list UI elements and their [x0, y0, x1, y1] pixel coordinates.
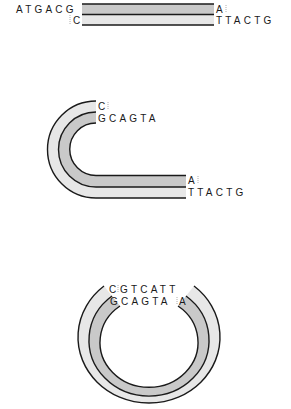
bent-bottom-outer-sequence: TTACTG: [188, 187, 246, 198]
top-strand-band: [82, 4, 214, 14]
dna-ligation-diagram: ATGACG C A TTACTG C GCAGTA A TTACTG C GT…: [0, 0, 291, 409]
bottom-strand-band: [82, 15, 214, 25]
bent-top-inner-sequence: GCAGTA: [98, 113, 159, 124]
top-right-sequence: A: [216, 4, 226, 15]
strand-outline: [70, 123, 186, 176]
circle-inner-right-sequence: A: [179, 296, 189, 307]
bottom-right-sequence: TTACTG: [216, 15, 274, 26]
bent-bottom-inner-sequence: A: [188, 175, 198, 186]
bottom-left-sequence: C: [73, 15, 83, 26]
circular-dna-panel: C GTCATT GCAGTA A: [78, 284, 220, 403]
bent-dna-panel: C GCAGTA A TTACTG: [48, 101, 247, 198]
circle-outer-right-sequence: GTCATT: [120, 284, 178, 295]
linear-dna-panel: ATGACG C A TTACTG: [16, 4, 274, 26]
bent-top-outer-sequence: C: [98, 101, 108, 112]
circle-inner-left-sequence: GCAGTA: [110, 296, 171, 307]
ring-outline: [100, 306, 198, 387]
top-left-sequence: ATGACG: [16, 4, 77, 15]
